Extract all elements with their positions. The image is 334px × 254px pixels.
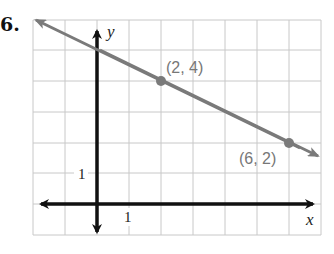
x-tick-label: 1 [124,209,132,225]
y-axis-label: y [105,22,115,41]
y-tick-label: 1 [78,166,86,182]
coordinate-graph: y x 1 1 (2, 4) (6, 2) [0,0,334,254]
point-label-6-2: (6, 2) [239,150,276,167]
point-2-4 [156,76,166,86]
point-6-2 [284,138,294,148]
point-label-2-4: (2, 4) [166,59,203,76]
data-line [36,20,318,156]
x-axis-label: x [305,210,314,229]
